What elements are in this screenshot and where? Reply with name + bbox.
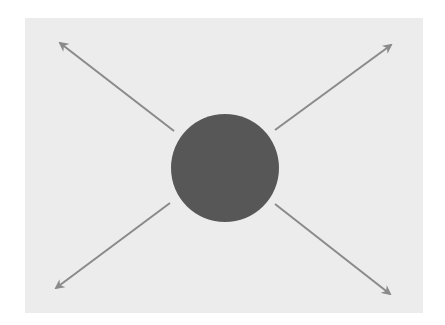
arrow-up-right-icon <box>275 45 391 130</box>
radiating-arrows-diagram <box>0 0 445 325</box>
arrow-down-left-icon <box>56 203 170 288</box>
arrow-down-right-icon <box>275 204 390 294</box>
center-circle <box>171 114 279 222</box>
arrow-up-left-icon <box>60 43 174 131</box>
